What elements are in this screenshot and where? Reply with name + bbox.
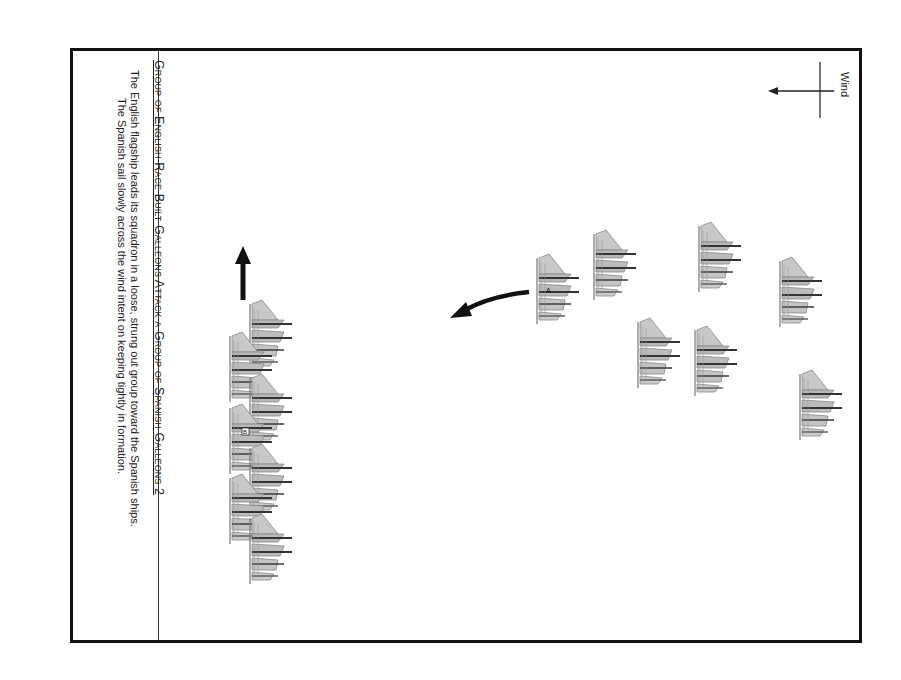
spanish-turn-arrow-head-icon bbox=[450, 302, 472, 318]
english-ship bbox=[250, 514, 292, 584]
english-flagship-marker-label: B bbox=[243, 429, 247, 435]
spanish-ship bbox=[699, 222, 741, 292]
spanish-squadron: A bbox=[450, 222, 842, 440]
spanish-flagship-marker-label: A bbox=[546, 287, 551, 294]
spanish-ship bbox=[638, 318, 680, 388]
spanish-ship bbox=[594, 230, 636, 300]
english-ship bbox=[250, 444, 292, 514]
english-squadron: B bbox=[230, 246, 292, 584]
wind-arrow-head-icon bbox=[768, 87, 778, 95]
spanish-ship bbox=[695, 326, 737, 396]
spanish-ship bbox=[780, 257, 822, 327]
diagram-overlay: B A bbox=[0, 0, 901, 680]
spanish-flagship bbox=[537, 254, 579, 324]
wind-indicator bbox=[768, 62, 834, 118]
english-heading-arrow-head-icon bbox=[235, 246, 251, 264]
spanish-turn-arrow-shaft bbox=[465, 292, 529, 310]
english-ship bbox=[250, 374, 292, 444]
spanish-ship bbox=[800, 370, 842, 440]
